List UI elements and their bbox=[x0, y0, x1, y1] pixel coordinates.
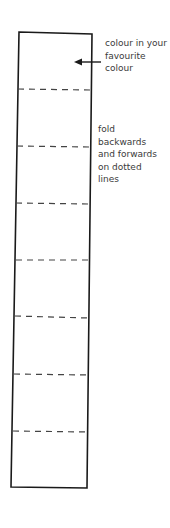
fold-line bbox=[15, 316, 88, 318]
fold-instruction-line: fold bbox=[98, 123, 157, 136]
fold-line bbox=[14, 374, 88, 375]
colour-instruction-line: colour in your bbox=[105, 37, 167, 50]
colour-instruction: colour in your favourite colour bbox=[105, 37, 167, 75]
fold-lines bbox=[13, 89, 91, 432]
left-arrow-icon bbox=[74, 59, 101, 66]
paper-strip-diagram bbox=[0, 0, 170, 528]
fold-instruction-line: lines bbox=[98, 173, 157, 186]
fold-line bbox=[18, 89, 91, 90]
fold-instruction: fold backwards and forwards on dotted li… bbox=[98, 123, 157, 186]
fold-instruction-line: on dotted bbox=[98, 161, 157, 174]
fold-instruction-line: backwards bbox=[98, 136, 157, 149]
colour-instruction-line: colour bbox=[105, 62, 167, 75]
fold-line bbox=[17, 146, 90, 147]
fold-instruction-line: and forwards bbox=[98, 148, 157, 161]
fold-line bbox=[13, 431, 88, 432]
fold-line bbox=[16, 203, 89, 204]
colour-instruction-line: favourite bbox=[105, 50, 167, 63]
